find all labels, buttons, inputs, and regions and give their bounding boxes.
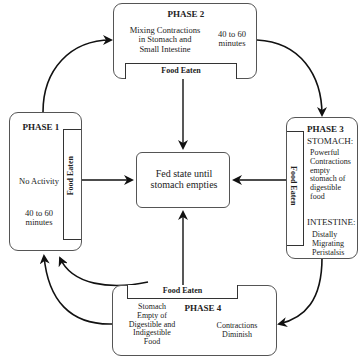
arrow-phase2-to-phase3 xyxy=(257,40,322,115)
phase3-food-eaten-label: Food Eaten xyxy=(289,166,298,205)
phase4-right-text: Contractions Diminish xyxy=(201,322,273,340)
center-fed-state-box: Fed state until stomach empties xyxy=(136,152,230,208)
phase2-activity-line: Small Intestine xyxy=(120,45,210,54)
phase2-food-eaten-label: Food Eaten xyxy=(126,66,236,75)
phase1-food-eaten-label: Food Eaten xyxy=(66,156,75,195)
phase1-duration: 40 to 60 minutes xyxy=(10,209,68,228)
arrow-phase1-to-phase2 xyxy=(43,40,111,112)
center-label-line: stomach empties xyxy=(137,179,231,190)
phase2-duration: 40 to 60 minutes xyxy=(210,30,254,49)
phase4-food-eaten-label: Food Eaten xyxy=(128,286,237,295)
phase4-right-line: Diminish xyxy=(201,331,273,340)
phase1-food-eaten-strip: Food Eaten xyxy=(63,129,81,240)
phase1-duration-line: minutes xyxy=(10,218,68,227)
center-label: Fed state until stomach empties xyxy=(137,168,231,190)
phase3-stomach-line: food xyxy=(310,193,358,202)
phase3-stomach-heading: STOMACH: xyxy=(307,137,359,147)
phase4-food-eaten-strip: Food Eaten xyxy=(127,285,238,299)
phase2-title: PHASE 2 xyxy=(114,10,258,20)
phase3-intestine-text: Distally Migrating Peristalsis xyxy=(312,231,358,257)
phase3-box: PHASE 3 STOMACH: Powerful Contractions e… xyxy=(286,117,358,259)
phase1-box: PHASE 1 No Activity 40 to 60 minutes Foo… xyxy=(9,112,82,251)
arrow-center-to-phase1 xyxy=(60,258,148,285)
center-label-line: Fed state until xyxy=(137,168,231,179)
phase2-food-eaten-strip: Food Eaten xyxy=(125,63,237,79)
arrow-phase4-to-phase1 xyxy=(44,256,112,324)
phase2-box: PHASE 2 Mixing Contractions in Stomach a… xyxy=(113,3,257,79)
phase3-intestine-heading: INTESTINE: xyxy=(307,218,359,228)
phase3-food-eaten-strip: Food Eaten xyxy=(287,131,304,246)
phase4-box: Food Eaten PHASE 4 Stomach Empty of Dige… xyxy=(112,285,277,356)
phase3-title: PHASE 3 xyxy=(307,125,357,135)
phase4-left-line: Food xyxy=(117,338,187,347)
phase1-activity: No Activity xyxy=(10,177,68,186)
phase3-intestine-line: Peristalsis xyxy=(312,249,358,258)
arrow-phase3-to-phase4 xyxy=(279,258,322,324)
phase2-duration-line: minutes xyxy=(210,39,254,48)
phase3-stomach-text: Powerful Contractions empty stomach of d… xyxy=(310,149,358,202)
phase4-left-text: Stomach Empty of Digestible and Indigest… xyxy=(117,303,187,347)
phase2-activity: Mixing Contractions in Stomach and Small… xyxy=(120,26,210,54)
